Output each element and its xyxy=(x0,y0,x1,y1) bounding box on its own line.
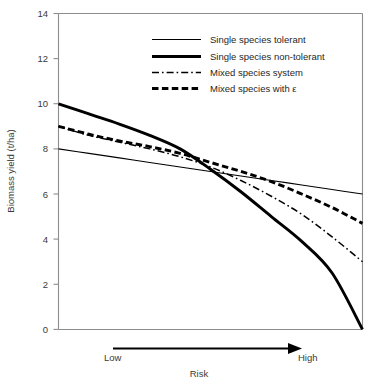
x-axis-low-label: Low xyxy=(104,352,122,363)
x-axis-title: Risk xyxy=(190,368,209,379)
chart-figure: 14 12 10 8 6 4 2 0 Biomass yield (t/ha) … xyxy=(0,0,370,385)
biomass-yield-risk-line-chart: 14 12 10 8 6 4 2 0 Biomass yield (t/ha) … xyxy=(0,0,370,385)
y-tick-label-10: 10 xyxy=(37,98,48,109)
y-axis-title: Biomass yield (t/ha) xyxy=(5,129,16,212)
legend-label-mixed-species-with-epsilon: Mixed species with ε xyxy=(210,83,297,94)
y-tick-label-0: 0 xyxy=(43,324,48,335)
y-tick-label-2: 2 xyxy=(43,279,48,290)
x-axis-high-label: High xyxy=(298,352,318,363)
y-tick-label-12: 12 xyxy=(37,53,48,64)
legend-label-mixed-species-system: Mixed species system xyxy=(210,67,303,78)
legend-label-single-species-non-tolerant: Single species non-tolerant xyxy=(210,51,325,62)
legend-label-single-species-tolerant: Single species tolerant xyxy=(210,34,306,45)
y-tick-label-14: 14 xyxy=(37,8,48,19)
y-tick-label-6: 6 xyxy=(43,189,48,200)
y-tick-label-8: 8 xyxy=(43,143,48,154)
y-tick-label-4: 4 xyxy=(43,234,48,245)
